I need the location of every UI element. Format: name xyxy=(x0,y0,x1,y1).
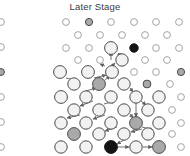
lattice-node[interactable] xyxy=(143,80,151,88)
lattice-node[interactable] xyxy=(130,141,142,153)
lattice-node[interactable] xyxy=(0,144,4,151)
lattice-node[interactable] xyxy=(80,117,92,129)
lattice-node[interactable] xyxy=(93,104,105,116)
lattice-node[interactable] xyxy=(93,78,106,91)
lattice-node[interactable] xyxy=(118,104,130,116)
lattice-node[interactable] xyxy=(55,91,68,104)
lattice-node[interactable] xyxy=(130,44,138,52)
lattice-node[interactable] xyxy=(0,94,4,101)
lattice-node[interactable] xyxy=(119,32,126,39)
lattice-node[interactable] xyxy=(75,57,82,64)
lattice-node[interactable] xyxy=(169,131,176,138)
lattice-node[interactable] xyxy=(153,45,160,52)
lattice-node[interactable] xyxy=(80,91,92,103)
lattice-node[interactable] xyxy=(54,66,67,79)
lattice-node[interactable] xyxy=(105,141,118,154)
lattice-node[interactable] xyxy=(177,68,184,75)
lattice-node[interactable] xyxy=(176,19,183,26)
lattice-node[interactable] xyxy=(105,42,118,55)
lattice-node[interactable] xyxy=(153,117,165,129)
lattice-node[interactable] xyxy=(130,91,142,103)
lattice-node[interactable] xyxy=(75,32,82,39)
lattice-node[interactable] xyxy=(97,32,104,39)
lattice-node[interactable] xyxy=(169,107,176,114)
lattice-node[interactable] xyxy=(108,19,115,26)
edge-arrow xyxy=(100,64,105,66)
lattice-node[interactable] xyxy=(55,117,67,129)
lattice-node[interactable] xyxy=(0,19,4,26)
lattice-node[interactable] xyxy=(153,19,160,26)
lattice-node[interactable] xyxy=(105,91,117,103)
lattice-node[interactable] xyxy=(167,81,174,88)
lattice-node[interactable] xyxy=(153,69,160,76)
lattice-node[interactable] xyxy=(142,128,154,140)
lattice-node[interactable] xyxy=(97,57,104,64)
lattice-node[interactable] xyxy=(0,69,4,76)
lattice-node[interactable] xyxy=(118,78,130,90)
lattice-node[interactable] xyxy=(142,32,149,39)
lattice-node[interactable] xyxy=(142,104,154,116)
lattice-node[interactable] xyxy=(0,44,4,51)
lattice-node[interactable] xyxy=(131,19,138,26)
lattice-node[interactable] xyxy=(105,117,117,129)
lattice-node[interactable] xyxy=(68,104,80,116)
lattice-node[interactable] xyxy=(118,128,130,140)
lattice-node[interactable] xyxy=(178,120,185,127)
lattice-node[interactable] xyxy=(63,19,70,26)
diagram-canvas: Later Stage xyxy=(0,0,190,156)
lattice-node[interactable] xyxy=(164,32,171,39)
lattice-node[interactable] xyxy=(86,45,93,52)
lattice-node[interactable] xyxy=(153,141,166,154)
lattice-node[interactable] xyxy=(82,66,95,79)
lattice-node[interactable] xyxy=(130,117,143,130)
lattice-node[interactable] xyxy=(178,94,185,101)
lattice-node[interactable] xyxy=(106,66,119,79)
lattice-node[interactable] xyxy=(93,128,105,140)
lattice-node[interactable] xyxy=(63,45,70,52)
node-layer xyxy=(0,18,185,153)
lattice-node[interactable] xyxy=(116,54,128,66)
lattice-diagram xyxy=(0,0,190,156)
lattice-node[interactable] xyxy=(164,57,171,64)
lattice-node[interactable] xyxy=(85,18,92,25)
lattice-node[interactable] xyxy=(142,57,149,64)
lattice-node[interactable] xyxy=(68,128,81,141)
lattice-node[interactable] xyxy=(153,91,165,103)
lattice-node[interactable] xyxy=(131,69,138,76)
lattice-node[interactable] xyxy=(55,141,67,153)
lattice-node[interactable] xyxy=(68,78,80,90)
lattice-node[interactable] xyxy=(0,119,4,126)
lattice-node[interactable] xyxy=(80,141,92,153)
lattice-node[interactable] xyxy=(176,45,183,52)
lattice-node[interactable] xyxy=(178,144,185,151)
